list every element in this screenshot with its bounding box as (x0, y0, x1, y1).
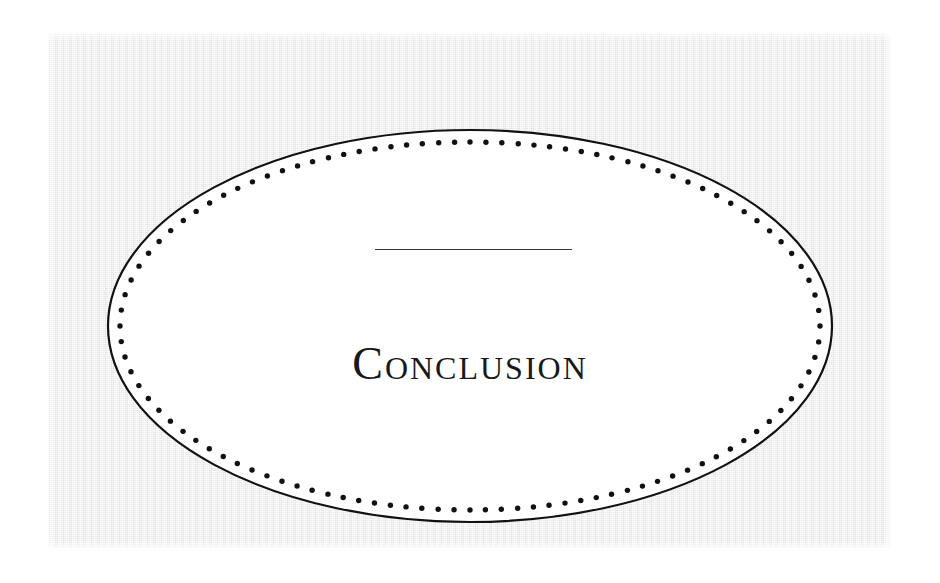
ellipse-ring-dot (806, 278, 811, 283)
ellipse-ring-dot (685, 179, 690, 184)
ellipse-ring-dot (714, 454, 719, 459)
ellipse-ring-dot (280, 168, 285, 173)
ellipse-ring-dot (483, 139, 488, 144)
ellipse-ring-dot (609, 155, 614, 160)
ellipse-ring-dot (357, 149, 362, 154)
ellipse-ring-dot (625, 488, 630, 493)
page-canvas: Conclusion (0, 0, 940, 583)
ellipse-ring-dot (562, 500, 567, 505)
ellipse-ring-dot (467, 139, 472, 144)
ellipse-ring-dot (578, 498, 583, 503)
ellipse-ring-dot (767, 419, 772, 424)
ellipse-ring-dot (325, 491, 330, 496)
ellipse-ring-dot (356, 498, 361, 503)
ellipse-ring-dot (728, 201, 733, 206)
ellipse-ring-dot (579, 149, 584, 154)
ellipse-ring-dot (207, 446, 212, 451)
ellipse-ring-dot (563, 146, 568, 151)
ellipse-ring-dot (180, 429, 185, 434)
ellipse-ring-dot (700, 461, 705, 466)
ellipse-ring-dot (778, 408, 783, 413)
ellipse-ring-dot (516, 141, 521, 146)
ellipse-ring-dot (341, 152, 346, 157)
ellipse-ring-dot (207, 200, 212, 205)
ellipse-ring-dot (754, 429, 759, 434)
ellipse-ring-dot (136, 383, 141, 388)
ellipse-ring-dot (515, 506, 520, 511)
ellipse-ring-dot (655, 479, 660, 484)
ellipse-ring-dot (817, 323, 822, 328)
ellipse-ring-dot (700, 186, 705, 191)
ellipse-ring-dot (483, 507, 488, 512)
ellipse-ring-dot (309, 488, 314, 493)
ellipse-ring-dot (452, 139, 457, 144)
ellipse-ring-dot (156, 408, 161, 413)
ellipse-ring-dot (436, 140, 441, 145)
ellipse-fill (108, 130, 832, 522)
decorative-ellipse-frame (0, 0, 940, 583)
ellipse-ring-dot (181, 218, 186, 223)
ellipse-ring-dot (499, 507, 504, 512)
ellipse-ring-dot (789, 396, 794, 401)
ellipse-ring-dot (265, 173, 270, 178)
ellipse-ring-dot (625, 159, 630, 164)
ellipse-ring-dot (249, 467, 254, 472)
ellipse-ring-dot (310, 159, 315, 164)
ellipse-ring-dot (640, 483, 645, 488)
ellipse-ring-dot (119, 307, 124, 312)
ellipse-ring-dot (156, 239, 161, 244)
ellipse-ring-dot (754, 218, 759, 223)
ellipse-ring-dot (193, 438, 198, 443)
ellipse-ring-dot (221, 193, 226, 198)
ellipse-ring-dot (235, 186, 240, 191)
ellipse-ring-dot (655, 168, 660, 173)
ellipse-ring-dot (372, 146, 377, 151)
ellipse-ring-dot (547, 144, 552, 149)
ellipse-ring-dot (326, 155, 331, 160)
ellipse-ring-dot (594, 152, 599, 157)
ellipse-ring-dot (119, 339, 124, 344)
ellipse-ring-dot (640, 163, 645, 168)
ellipse-ring-dot (372, 500, 377, 505)
ellipse-ring-dot (146, 250, 151, 255)
ellipse-ring-dot (789, 251, 794, 256)
ellipse-ring-dot (816, 308, 821, 313)
ellipse-ring-dot (122, 292, 127, 297)
ellipse-ring-dot (451, 507, 456, 512)
ellipse-ring-dot (531, 142, 536, 147)
ellipse-ring-dot (264, 473, 269, 478)
ellipse-ring-dot (221, 454, 226, 459)
ellipse-ring-dot (279, 479, 284, 484)
ellipse-ring-dot (117, 323, 122, 328)
ellipse-ring-dot (467, 507, 472, 512)
ellipse-ring-dot (812, 355, 817, 360)
ellipse-ring-dot (816, 339, 821, 344)
ellipse-ring-dot (404, 142, 409, 147)
ellipse-ring-dot (128, 369, 133, 374)
ellipse-ring-dot (741, 209, 746, 214)
ellipse-ring-dot (546, 503, 551, 508)
ellipse-ring-dot (168, 228, 173, 233)
ellipse-ring-dot (670, 473, 675, 478)
ellipse-ring-dot (812, 292, 817, 297)
ellipse-ring-dot (435, 507, 440, 512)
ellipse-ring-dot (341, 495, 346, 500)
ellipse-ring-dot (295, 163, 300, 168)
ellipse-ring-dot (403, 504, 408, 509)
ellipse-ring-dot (798, 383, 803, 388)
ellipse-ring-dot (685, 467, 690, 472)
ellipse-ring-dot (388, 144, 393, 149)
ellipse-ring-dot (250, 179, 255, 184)
ellipse-ring-dot (388, 502, 393, 507)
ellipse-ring-dot (499, 140, 504, 145)
ellipse-ring-dot (728, 446, 733, 451)
ellipse-ring-dot (146, 396, 151, 401)
ellipse-ring-dot (778, 239, 783, 244)
ellipse-ring-dot (670, 173, 675, 178)
ellipse-ring-dot (168, 418, 173, 423)
ellipse-ring-dot (806, 369, 811, 374)
ellipse-ring-dot (594, 495, 599, 500)
ellipse-ring-dot (128, 277, 133, 282)
ellipse-ring-dot (419, 506, 424, 511)
ellipse-ring-dot (420, 141, 425, 146)
